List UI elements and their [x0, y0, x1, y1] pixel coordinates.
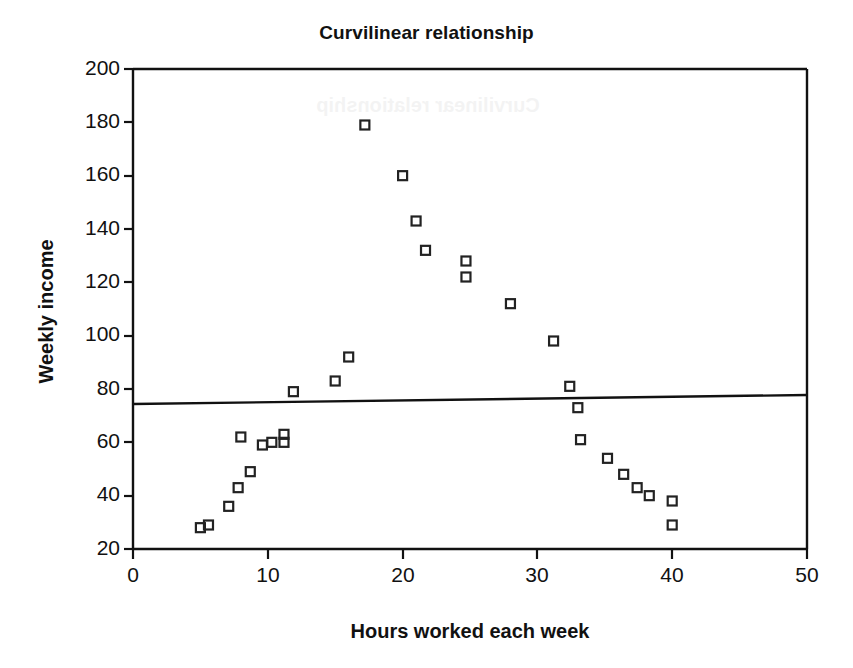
scatter-point — [565, 382, 574, 391]
scatter-marker-group — [196, 121, 677, 533]
scatter-point — [668, 521, 677, 530]
scatter-point — [633, 483, 642, 492]
plot-area — [0, 0, 853, 668]
scatter-point — [258, 441, 267, 450]
scatter-point — [506, 299, 515, 308]
scatter-point — [236, 433, 245, 442]
trend-line — [133, 395, 807, 404]
y-axis-ticks — [124, 69, 133, 549]
scatter-point — [412, 217, 421, 226]
scatter-point — [603, 454, 612, 463]
scatter-point — [619, 470, 628, 479]
scatter-point — [645, 491, 654, 500]
scatter-point — [360, 121, 369, 130]
scatter-point — [549, 337, 558, 346]
scatter-point — [224, 502, 233, 511]
scatter-point — [246, 467, 255, 476]
scatter-point — [267, 438, 276, 447]
chart-figure: Curvilinear relationship Curvilinear rel… — [0, 0, 853, 668]
x-axis-ticks — [133, 549, 807, 559]
scatter-point — [576, 435, 585, 444]
scatter-point — [421, 246, 430, 255]
scatter-point — [344, 353, 353, 362]
scatter-point — [461, 273, 470, 282]
axis-frame — [133, 69, 807, 549]
scatter-point — [331, 377, 340, 386]
scatter-point — [398, 171, 407, 180]
scatter-point — [668, 497, 677, 506]
scatter-point — [461, 257, 470, 266]
scatter-point — [289, 387, 298, 396]
scatter-point — [234, 483, 243, 492]
scatter-point — [573, 403, 582, 412]
